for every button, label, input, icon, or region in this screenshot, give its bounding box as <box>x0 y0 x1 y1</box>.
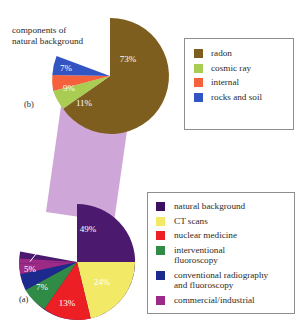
slice-label-nuclear-medicine: 13% <box>59 298 76 308</box>
legend-panel-a: natural background CT scans nuclear medi… <box>147 192 295 314</box>
legend-label-nuclear-medicine: nuclear medicine <box>174 230 237 241</box>
legend-swatch-conventional-radiography <box>156 271 165 280</box>
legend-label-radon: radon <box>211 48 232 59</box>
legend-panel-b: radon cosmic ray internal rocks and soil <box>184 38 294 130</box>
legend-item: internal <box>194 77 285 88</box>
slice-label-ct-scans: 24% <box>94 277 111 287</box>
callout-line-2: natural background <box>12 36 83 47</box>
legend-item: conventional radiography and fluoroscopy <box>156 270 286 291</box>
legend-label-line: interventional <box>174 245 225 255</box>
legend-label-rocks-and-soil: rocks and soil <box>211 92 262 103</box>
legend-label-internal: internal <box>211 77 239 88</box>
callout-line-1: components of <box>12 25 83 36</box>
legend-item: CT scans <box>156 216 286 227</box>
legend-swatch-natural-background <box>156 202 165 211</box>
legend-item: interventional fluoroscopy <box>156 245 286 266</box>
panel-label-a: (a) <box>19 294 28 304</box>
legend-item: rocks and soil <box>194 92 285 103</box>
legend-item: commercial/industrial <box>156 295 286 306</box>
legend-swatch-rocks-and-soil <box>194 93 203 102</box>
legend-item: natural background <box>156 201 286 212</box>
legend-swatch-nuclear-medicine <box>156 231 165 240</box>
legend-label-natural-background: natural background <box>174 201 245 212</box>
slice-label-natural-background: 49% <box>80 224 97 234</box>
panel-a-slices <box>19 204 135 320</box>
slice-label-commercial-industrial: 2% <box>25 242 38 252</box>
legend-label-line: and fluoroscopy <box>174 280 233 290</box>
legend-item: nuclear medicine <box>156 230 286 241</box>
legend-label-line: fluoroscopy <box>174 255 218 265</box>
legend-swatch-cosmic-ray <box>194 64 203 73</box>
legend-swatch-commercial-industrial <box>156 296 165 305</box>
legend-label-cosmic-ray: cosmic ray <box>211 63 251 74</box>
legend-swatch-internal <box>194 78 203 87</box>
slice-label-conventional-radiography: 5% <box>24 264 37 274</box>
legend-item: radon <box>194 48 285 59</box>
legend-label-ct-scans: CT scans <box>174 216 208 227</box>
legend-item: cosmic ray <box>194 63 285 74</box>
slice-label-interventional-fluoroscopy: 7% <box>36 282 49 292</box>
legend-label-commercial-industrial: commercial/industrial <box>174 295 255 306</box>
legend-swatch-radon <box>194 49 203 58</box>
radiation-exposure-figure: 73% 11% 9% 7% 49% 24% 13% 7% 5% 2% <box>0 0 301 330</box>
legend-swatch-ct-scans <box>156 217 165 226</box>
callout-components-of-natural-background: components of natural background <box>11 24 86 48</box>
panel-label-b: (b) <box>24 99 34 109</box>
legend-label-conventional-radiography: conventional radiography and fluoroscopy <box>174 270 268 291</box>
legend-swatch-interventional-fluoroscopy <box>156 246 165 255</box>
legend-label-interventional-fluoroscopy: interventional fluoroscopy <box>174 245 225 266</box>
legend-label-line: conventional radiography <box>174 270 268 280</box>
